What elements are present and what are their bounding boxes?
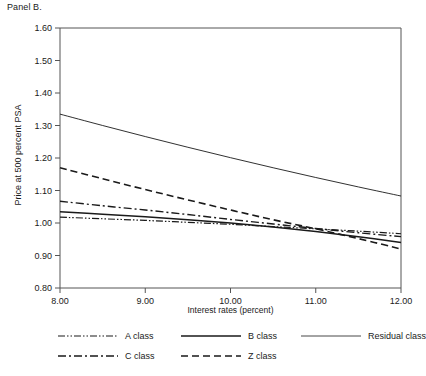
legend-label-residual-class: Residual class: [368, 331, 426, 341]
chart-legend: A class B class Residual class C class Z…: [0, 327, 423, 372]
legend-swatch-z-class: [180, 351, 242, 361]
legend-item-c-class[interactable]: C class: [57, 351, 155, 361]
x-axis-label: Interest rates (percent): [60, 305, 401, 315]
legend-item-z-class[interactable]: Z class: [180, 351, 277, 361]
y-tick-label: 1.20: [34, 153, 52, 163]
axis-group: [55, 28, 401, 293]
legend-swatch-b-class: [180, 331, 242, 341]
legend-label-a-class: A class: [125, 331, 154, 341]
y-tick-label: 1.00: [34, 218, 52, 228]
legend-swatch-a-class: [57, 331, 119, 341]
y-tick-label: 1.60: [34, 23, 52, 33]
y-tick-label: 0.90: [34, 251, 52, 261]
y-tick-label: 1.40: [34, 88, 52, 98]
legend-label-b-class: B class: [248, 331, 277, 341]
legend-swatch-c-class: [57, 351, 119, 361]
legend-item-residual-class[interactable]: Residual class: [300, 331, 426, 341]
tick-label-group: 0.800.901.001.101.201.301.401.501.608.00…: [34, 23, 412, 306]
series-line-b-class: [60, 212, 401, 243]
legend-item-a-class[interactable]: A class: [57, 331, 154, 341]
legend-item-b-class[interactable]: B class: [180, 331, 277, 341]
y-tick-label: 1.30: [34, 121, 52, 131]
legend-label-c-class: C class: [125, 351, 155, 361]
series-line-z-class: [60, 168, 401, 249]
legend-swatch-residual-class: [300, 331, 362, 341]
y-tick-label: 1.10: [34, 186, 52, 196]
y-tick-label: 0.80: [34, 283, 52, 293]
series-group: [60, 114, 401, 249]
series-line-residual-class: [60, 114, 401, 196]
y-tick-label: 1.50: [34, 56, 52, 66]
legend-label-z-class: Z class: [248, 351, 277, 361]
